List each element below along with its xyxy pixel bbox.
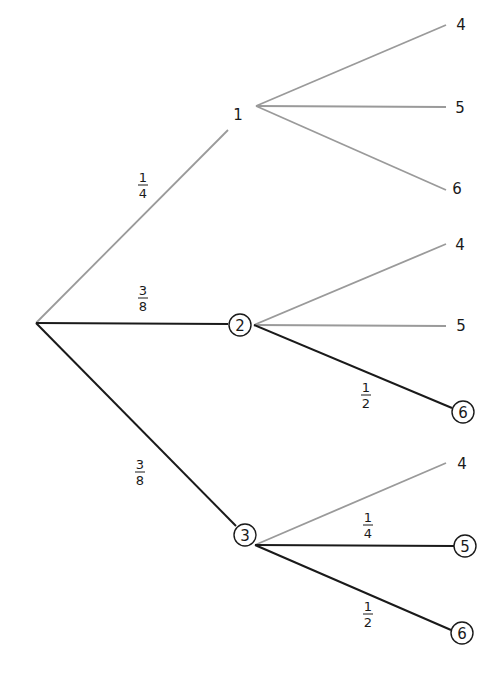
- fraction-numerator: 1: [362, 380, 370, 395]
- leaf-1-6: 6: [452, 180, 462, 198]
- edge-2-to-5: [254, 325, 446, 326]
- node-label: 4: [455, 236, 465, 254]
- leaf-3-4: 4: [457, 455, 467, 473]
- node-label: 6: [457, 625, 467, 643]
- fraction-denominator: 8: [139, 299, 147, 314]
- edge-1-to-4: [256, 25, 446, 106]
- node-label: 3: [240, 527, 250, 545]
- probability-fraction: 12: [361, 380, 371, 411]
- fraction-denominator: 8: [136, 473, 144, 488]
- probability-fraction: 14: [138, 170, 148, 201]
- edge-root-to-2: [36, 323, 228, 324]
- leaf-1-5: 5: [455, 99, 465, 117]
- edge-root-to-3: [36, 323, 236, 526]
- leaf-2-5: 5: [456, 317, 466, 335]
- fraction-denominator: 4: [139, 186, 147, 201]
- edge-root-to-1: [36, 130, 228, 323]
- node-label: 5: [456, 317, 466, 335]
- edge-2-to-4: [254, 244, 446, 325]
- node-label: 6: [458, 404, 468, 422]
- edge-2-to-6: [254, 325, 452, 408]
- leaf-2-4: 4: [455, 236, 465, 254]
- node-label: 5: [455, 99, 465, 117]
- probability-tree-diagram: 123456456456 143838121412: [0, 0, 503, 692]
- edge-1-to-6: [256, 106, 446, 190]
- probability-fraction: 14: [363, 510, 373, 541]
- node-label: 5: [460, 538, 470, 556]
- fraction-numerator: 1: [139, 170, 147, 185]
- node-level1-3: 3: [234, 524, 256, 546]
- leaf-1-4: 4: [456, 16, 466, 34]
- leaf-3-5: 5: [454, 535, 476, 557]
- edge-3-to-6: [255, 545, 451, 630]
- fraction-numerator: 1: [364, 510, 372, 525]
- probability-fraction: 38: [138, 283, 148, 314]
- fraction-numerator: 3: [136, 457, 144, 472]
- edge-3-to-5: [255, 545, 454, 546]
- node-label: 6: [452, 180, 462, 198]
- leaf-3-6: 6: [451, 622, 473, 644]
- fraction-denominator: 2: [364, 615, 372, 630]
- fraction-denominator: 4: [364, 526, 372, 541]
- fraction-denominator: 2: [362, 396, 370, 411]
- node-label: 4: [456, 16, 466, 34]
- edge-1-to-5: [256, 106, 446, 107]
- node-level1-2: 2: [229, 314, 251, 336]
- leaf-2-6: 6: [452, 401, 474, 423]
- node-label: 1: [233, 106, 243, 124]
- edge-3-to-4: [255, 463, 446, 545]
- probability-fraction: 38: [135, 457, 145, 488]
- fraction-numerator: 1: [364, 599, 372, 614]
- probability-fraction: 12: [363, 599, 373, 630]
- node-level1-1: 1: [233, 106, 243, 124]
- fraction-numerator: 3: [139, 283, 147, 298]
- node-label: 4: [457, 455, 467, 473]
- probability-labels: 143838121412: [135, 170, 373, 630]
- node-label: 2: [235, 317, 245, 335]
